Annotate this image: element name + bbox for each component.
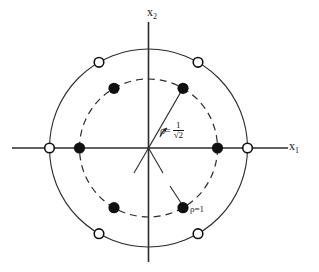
outer-point xyxy=(193,58,203,68)
fraction-denominator: √2 xyxy=(173,130,184,140)
outer-point xyxy=(243,143,253,153)
inner-point xyxy=(74,142,85,153)
spoke-mark-300 xyxy=(149,148,164,173)
outer-point xyxy=(193,229,203,239)
outer-point xyxy=(45,143,55,153)
inner-point xyxy=(108,202,119,213)
spoke-mark-240 xyxy=(134,148,149,173)
x-axis-label: x1 xyxy=(289,140,299,155)
y-axis-label-subscript: 2 xyxy=(153,12,157,21)
inner-point xyxy=(177,202,188,213)
inner-point xyxy=(177,83,188,94)
x-axis-label-subscript: 1 xyxy=(295,146,299,155)
inner-point xyxy=(212,142,223,153)
fraction: 1√2 xyxy=(173,121,184,140)
inner-radius-annotation: ρ=1√2 xyxy=(160,122,184,141)
figure-canvas: x2 x1 ρ=1√2 ρ=1 xyxy=(0,0,319,272)
outer-point xyxy=(94,229,104,239)
outer-radius-annotation: ρ=1 xyxy=(190,205,204,214)
inner-point xyxy=(108,83,119,94)
inner-radius-annotation-text: ρ= xyxy=(160,125,171,136)
fraction-numerator: 1 xyxy=(173,121,184,130)
outer-point xyxy=(94,58,104,68)
y-axis-label: x2 xyxy=(147,6,157,21)
